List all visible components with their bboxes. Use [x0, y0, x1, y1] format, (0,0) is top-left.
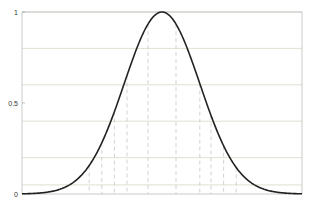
- alpha-cut-dashed-lines: [89, 24, 236, 194]
- y-axis-ticks: 00.51: [8, 9, 25, 198]
- bell-curve-line: [22, 12, 302, 194]
- axes-box: [22, 12, 302, 194]
- y-tick-label: 1: [14, 9, 18, 16]
- y-tick-label: 0.5: [8, 100, 18, 107]
- bell-curve-chart: 00.51: [0, 0, 312, 206]
- alpha-level-lines: [22, 12, 302, 185]
- y-tick-label: 0: [14, 191, 18, 198]
